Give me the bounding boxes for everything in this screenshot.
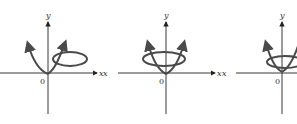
figure-canvas: y x 0 y x x 0 y x 0 <box>0 0 297 124</box>
x-axis-label-left: x <box>222 69 227 78</box>
panel-1: y x 0 <box>0 11 104 114</box>
curve <box>48 43 65 74</box>
y-axis-label: y <box>45 11 51 20</box>
origin-label: 0 <box>275 77 280 86</box>
origin-label: 0 <box>159 77 164 86</box>
panel-2: y x x 0 <box>103 11 222 114</box>
curve <box>148 43 166 74</box>
y-axis-label: y <box>163 11 169 20</box>
origin-label: 0 <box>40 77 45 86</box>
curve <box>166 43 184 74</box>
panel-3: y x 0 <box>222 11 297 114</box>
x-axis-label-left: x <box>103 69 108 78</box>
y-axis-label: y <box>279 11 285 20</box>
curve <box>28 44 48 74</box>
